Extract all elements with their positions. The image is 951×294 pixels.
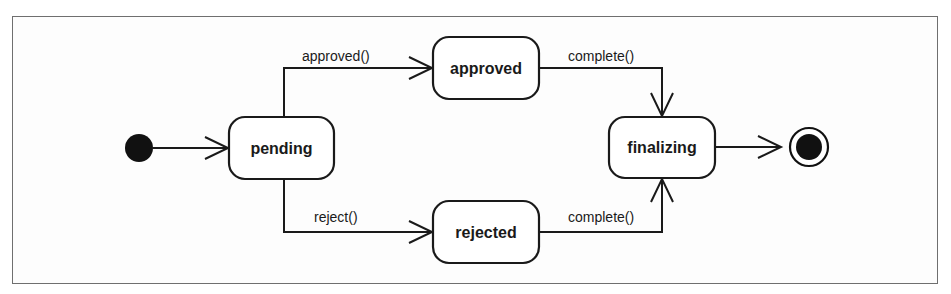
transition-label: approved() <box>302 48 370 64</box>
initial-state-icon <box>125 134 153 162</box>
transition-rejected-to-finalizing: complete() <box>539 179 673 232</box>
transition-label: complete() <box>568 209 634 225</box>
transition-pending-to-approved: approved() <box>284 48 432 117</box>
final-state-icon <box>790 128 828 166</box>
state-label: rejected <box>455 224 516 241</box>
transition-approved-to-finalizing: complete() <box>539 48 673 116</box>
transition-label: complete() <box>568 48 634 64</box>
state-finalizing[interactable]: finalizing <box>609 117 715 178</box>
state-diagram: pending approved() reject() approved rej… <box>0 0 951 294</box>
transition-initial-to-pending <box>152 137 228 159</box>
transition-label: reject() <box>314 209 358 225</box>
state-label: pending <box>250 140 312 157</box>
state-rejected[interactable]: rejected <box>433 201 539 263</box>
state-label: approved <box>450 60 522 77</box>
state-approved[interactable]: approved <box>433 37 539 99</box>
transition-finalizing-to-final <box>715 136 781 158</box>
state-label: finalizing <box>627 139 696 156</box>
state-pending[interactable]: pending <box>229 117 334 179</box>
transition-pending-to-rejected: reject() <box>284 179 432 243</box>
